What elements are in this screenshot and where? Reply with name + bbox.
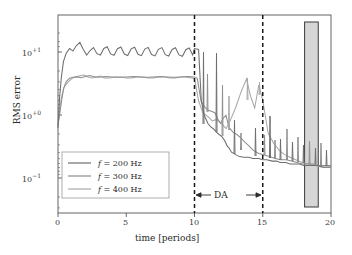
legend-label-400hz: f = 400 Hz bbox=[98, 185, 142, 194]
ytick-label-10p0: 10+0 bbox=[22, 109, 41, 121]
ytick-label-10p1: 10+1 bbox=[22, 46, 41, 58]
highlight-box bbox=[305, 22, 319, 207]
xtick-label-0: 0 bbox=[55, 218, 60, 227]
y-axis-title: RMS error bbox=[12, 55, 22, 145]
xtick-label-20: 20 bbox=[325, 218, 335, 227]
xtick-label-10: 10 bbox=[189, 218, 199, 227]
rms-error-log-plot bbox=[0, 0, 352, 255]
da-annotation-label: DA bbox=[214, 190, 228, 200]
xtick-label-5: 5 bbox=[123, 218, 128, 227]
legend-label-200hz: f = 200 Hz bbox=[98, 159, 142, 168]
legend-label-300hz: f = 300 Hz bbox=[98, 172, 142, 181]
xtick-label-15: 15 bbox=[257, 218, 267, 227]
x-axis-ticks bbox=[58, 213, 331, 217]
x-axis-title: time [periods] bbox=[135, 233, 199, 243]
ytick-label-10m1: 10−1 bbox=[22, 172, 41, 184]
figure-container: 10+1 10+0 10−1 0 5 10 15 20 RMS error ti… bbox=[0, 0, 352, 255]
